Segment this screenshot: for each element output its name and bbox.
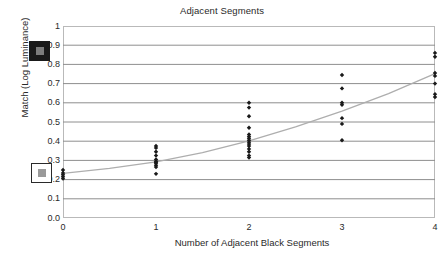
light-surround-swatch [31,163,52,183]
chart-container: Adjacent Segments Match (Log Luminance) … [0,0,444,257]
x-tick-label: 0 [51,223,75,232]
x-tick-label: 3 [330,223,354,232]
light-swatch-center-patch [38,169,46,177]
x-axis-label: Number of Adjacent Black Segments [62,237,442,248]
x-tick-label: 2 [237,223,261,232]
dark-swatch-center-patch [36,47,44,55]
x-axis-ticks: 01234 [0,0,444,257]
x-tick-label: 1 [144,223,168,232]
dark-surround-swatch [29,41,50,61]
x-tick-label: 4 [423,223,444,232]
